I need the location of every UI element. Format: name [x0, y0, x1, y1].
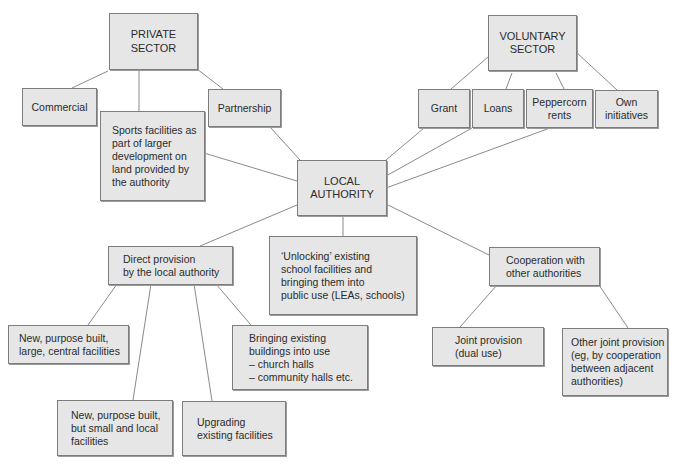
node-voluntary-sector: VOLUNTARY SECTOR: [488, 15, 577, 71]
edge-loans-local: [386, 128, 472, 176]
node-joint-provision: Joint provision (dual use): [432, 327, 544, 366]
node-other-joint: Other joint provision (eg, by cooperatio…: [562, 328, 668, 396]
node-upgrading: Upgrading existing facilities: [182, 401, 286, 456]
node-grant: Grant: [418, 89, 470, 128]
edge-coop-joint: [460, 285, 497, 327]
node-label: Peppercorn rents: [532, 96, 586, 122]
node-label: Other joint provision (eg, by cooperatio…: [571, 336, 664, 388]
node-label: Cooperation with other authorities: [506, 254, 585, 280]
node-peppercorn-rents: Peppercorn rents: [526, 89, 593, 128]
node-local-authority: LOCAL AUTHORITY: [297, 160, 387, 216]
edge-voluntary-own: [576, 52, 617, 90]
node-label: Loans: [484, 102, 513, 115]
node-label: PRIVATE SECTOR: [131, 28, 177, 55]
edge-direct-upgrading: [194, 284, 212, 401]
node-label: New, purpose built, but small and local …: [71, 409, 160, 448]
node-commercial: Commercial: [22, 88, 97, 126]
node-new-large: New, purpose built, large, central facil…: [8, 325, 129, 364]
node-label: Sports facilities as part of larger deve…: [112, 124, 197, 189]
edge-direct-bringing: [216, 284, 251, 325]
node-own-initiatives: Own initiatives: [595, 90, 658, 128]
node-label: VOLUNTARY SECTOR: [499, 30, 565, 57]
node-label: Partnership: [218, 102, 272, 115]
node-cooperation: Cooperation with other authorities: [489, 247, 600, 286]
node-label: Grant: [431, 102, 457, 115]
node-loans: Loans: [472, 89, 524, 128]
edge-private-partnership: [197, 69, 223, 89]
edge-private-commercial: [72, 71, 108, 88]
node-label: Upgrading existing facilities: [197, 416, 273, 442]
node-sports-facilities: Sports facilities as part of larger deve…: [100, 111, 205, 201]
edge-voluntary-loans: [506, 73, 512, 89]
node-label: Joint provision (dual use): [455, 334, 522, 360]
edge-partnership-local: [270, 127, 300, 160]
node-label: Own initiatives: [605, 96, 648, 122]
edge-peppercorn-local: [386, 128, 550, 188]
edge-direct-newsmall: [133, 284, 151, 400]
edge-voluntary-peppercorn: [556, 73, 564, 89]
node-partnership: Partnership: [208, 89, 281, 127]
node-label: New, purpose built, large, central facil…: [19, 332, 120, 358]
node-bringing-existing: Bringing existing buildings into use – c…: [232, 325, 368, 390]
edge-direct-newlarge: [88, 284, 117, 325]
edge-coop-other: [599, 285, 628, 328]
node-direct-provision: Direct provision by the local authority: [108, 246, 233, 285]
edge-voluntary-grant: [451, 57, 488, 89]
edge-sports-local: [204, 153, 297, 181]
node-label: LOCAL AUTHORITY: [310, 175, 374, 202]
node-new-small: New, purpose built, but small and local …: [57, 400, 173, 456]
edge-grant-local: [386, 128, 424, 160]
node-unlocking: ‘Unlocking’ existing school facilities a…: [269, 236, 417, 315]
node-label: Bringing existing buildings into use – c…: [249, 332, 353, 384]
node-label: ‘Unlocking’ existing school facilities a…: [281, 250, 405, 302]
node-label: Commercial: [31, 101, 87, 114]
node-private-sector: PRIVATE SECTOR: [109, 13, 198, 70]
node-label: Direct provision by the local authority: [123, 253, 219, 279]
